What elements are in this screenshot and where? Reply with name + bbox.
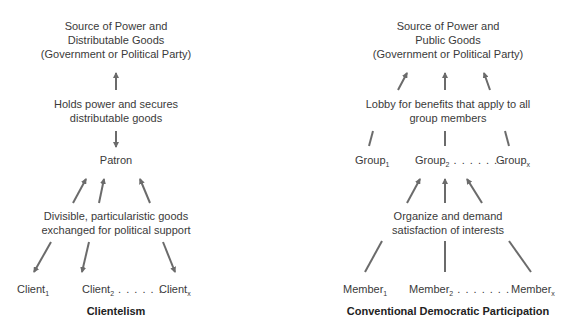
- left-holds-power-line-2: distributable goods: [54, 111, 178, 125]
- arrow-down-to-client-2: [82, 242, 89, 272]
- line-group-x: [505, 131, 509, 146]
- democratic-participation-caption: Conventional Democratic Participation: [347, 305, 549, 317]
- left-source-line-1: Source of Power and: [41, 19, 191, 33]
- member-x-label: Memberx: [511, 282, 555, 301]
- line-member-1: [365, 241, 382, 272]
- left-holds-power-line-1: Holds power and secures: [54, 97, 178, 111]
- lobby-text: Lobby for benefits that apply to all gro…: [366, 97, 531, 125]
- lobby-line-1: Lobby for benefits that apply to all: [366, 97, 531, 111]
- arrow-up-to-groups-1: [407, 179, 420, 203]
- lobby-line-2: group members: [366, 111, 531, 125]
- right-source-line-3: (Government or Political Party): [373, 47, 523, 61]
- left-exchange-line-1: Divisible, particularistic goods: [41, 209, 190, 223]
- left-holds-power-text: Holds power and secures distributable go…: [54, 97, 178, 125]
- line-member-x: [509, 241, 531, 272]
- right-source-line-2: Public Goods: [373, 33, 523, 47]
- arrow-up-to-patron-2: [99, 179, 104, 203]
- arrow-up-to-public-source-3: [484, 73, 490, 90]
- left-exchange-text: Divisible, particularistic goods exchang…: [41, 209, 190, 237]
- arrow-up-to-public-source-1: [398, 73, 407, 90]
- arrow-up-to-groups-3: [467, 179, 482, 203]
- organize-text: Organize and demand satisfaction of inte…: [392, 209, 504, 237]
- patron-label: Patron: [100, 153, 132, 167]
- arrow-down-to-client-1: [34, 242, 51, 272]
- member-2-label: Member2 . . . . . . .: [409, 282, 510, 301]
- right-source-box: Source of Power and Public Goods (Govern…: [373, 19, 523, 61]
- organize-line-2: satisfaction of interests: [392, 223, 504, 237]
- member-1-label: Member1: [343, 282, 387, 301]
- group-2-label: Group2 . . . . . . .: [415, 153, 506, 172]
- left-source-line-3: (Government or Political Party): [41, 47, 191, 61]
- line-group-1: [369, 131, 373, 146]
- client-1-label: Client1: [17, 282, 49, 301]
- group-1-label: Group1: [355, 153, 389, 172]
- arrow-up-to-patron-1: [73, 179, 86, 203]
- clientelism-caption: Clientelism: [87, 305, 146, 317]
- group-x-label: Groupx: [496, 153, 530, 172]
- arrow-up-to-patron-3: [140, 179, 150, 203]
- organize-line-1: Organize and demand: [392, 209, 504, 223]
- client-2-label: Client2 . . . . . . .: [82, 282, 171, 301]
- arrow-down-to-client-x: [163, 242, 175, 272]
- left-source-box: Source of Power and Distributable Goods …: [41, 19, 191, 61]
- client-x-label: Clientx: [159, 282, 191, 301]
- left-source-line-2: Distributable Goods: [41, 33, 191, 47]
- right-source-line-1: Source of Power and: [373, 19, 523, 33]
- left-exchange-line-2: exchanged for political support: [41, 223, 190, 237]
